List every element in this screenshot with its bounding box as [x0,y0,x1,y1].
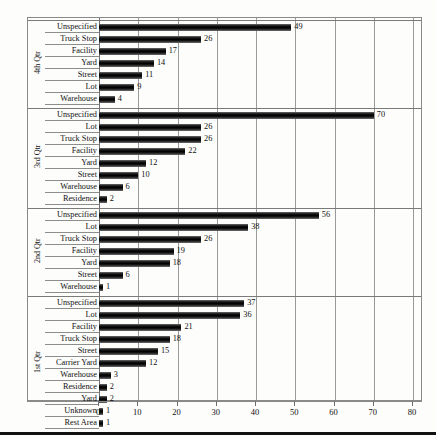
category-label: Warehouse [45,94,97,104]
bar-value-label: 9 [137,82,141,92]
bar-row: Street10 [28,169,421,181]
bar-value-label: 37 [247,298,255,308]
bar [99,336,170,343]
category-label: Facility [45,146,97,156]
bar [99,184,123,191]
bar-value-label: 3 [114,370,118,380]
bar-row: Truck Stop26 [28,233,421,245]
bar-value-label: 26 [204,134,212,144]
bar-row: Street11 [28,69,421,81]
bar [99,72,142,79]
x-tick-60 [334,401,335,406]
category-label: Lot [45,122,97,132]
x-tick-20 [177,401,178,406]
x-axis: 01020304050607080 [27,401,422,431]
category-label: Warehouse [45,182,97,192]
bar [99,96,115,103]
x-tick-30 [216,401,217,406]
category-row-rule [45,204,99,205]
bar-row: Warehouse6 [28,181,421,193]
category-label: Truck Stop [45,34,97,44]
bar-row: Yard14 [28,57,421,69]
bar-value-label: 14 [157,58,165,68]
bar-value-label: 22 [188,146,196,156]
bar-row: Truck Stop18 [28,333,421,345]
bar [99,84,134,91]
x-tick-label: 80 [408,407,417,417]
bar [99,348,158,355]
bar-row: Truck Stop26 [28,33,421,45]
bar-row: Facility22 [28,145,421,157]
category-label: Lot [45,222,97,232]
category-label: Unspecified [45,298,97,308]
bar-value-label: 6 [126,270,130,280]
bar [99,284,103,291]
category-label: Yard [45,158,97,168]
category-label: Carrier Yard [45,358,97,368]
bar-row: Warehouse4 [28,93,421,105]
bar-value-label: 38 [251,222,259,232]
category-label: Street [45,270,97,280]
bar [99,36,201,43]
bar-row: Unspecified37 [28,297,421,309]
category-label: Facility [45,46,97,56]
bar-row: Residence2 [28,381,421,393]
bar [99,136,201,143]
bar-value-label: 12 [149,158,157,168]
x-tick-label: 60 [329,407,338,417]
bar-row: Street6 [28,269,421,281]
bar-row: Unspecified70 [28,109,421,121]
bar [99,372,111,379]
bar-row: Lot36 [28,309,421,321]
bar-row: Lot26 [28,121,421,133]
category-label: Warehouse [45,282,97,292]
category-label: Unspecified [45,110,97,120]
bar-row: Lot9 [28,81,421,93]
x-tick-40 [255,401,256,406]
category-label: Facility [45,246,97,256]
bar-value-label: 26 [204,122,212,132]
bar [99,212,319,219]
bar [99,60,154,67]
bar [99,272,123,279]
x-tick-label: 50 [290,407,299,417]
bar-value-label: 18 [173,258,181,268]
bar-value-label: 49 [294,22,302,32]
bar-row: Truck Stop26 [28,133,421,145]
bar [99,324,181,331]
x-tick-label: 10 [133,407,142,417]
bar [99,248,174,255]
bar-value-label: 21 [184,322,192,332]
plot-area: 4th QtrUnspecified49Truck Stop26Facility… [27,17,422,401]
bar-row: Warehouse3 [28,369,421,381]
bar [99,112,374,119]
quarter-group-3rd-qtr: 3rd QtrUnspecified70Lot26Truck Stop26Fac… [28,108,421,205]
bar [99,148,185,155]
bar [99,196,107,203]
bar-row: Facility21 [28,321,421,333]
bar-value-label: 15 [161,346,169,356]
bar-value-label: 6 [126,182,130,192]
quarter-group-2nd-qtr: 2nd QtrUnspecified56Lot38Truck Stop26Fac… [28,208,421,293]
category-label: Yard [45,258,97,268]
bar [99,24,291,31]
bar [99,124,201,131]
bar-row: Unspecified56 [28,209,421,221]
category-label: Truck Stop [45,134,97,144]
bar [99,260,170,267]
bar-row: Yard12 [28,157,421,169]
bar-value-label: 2 [110,382,114,392]
x-tick-label: 30 [212,407,221,417]
bar [99,384,107,391]
bar-value-label: 18 [173,334,181,344]
bar-value-label: 19 [177,246,185,256]
bar-row: Unspecified49 [28,21,421,33]
category-label: Residence [45,382,97,392]
x-tick-80 [412,401,413,406]
bar-chart-figure: 4th QtrUnspecified49Truck Stop26Facility… [0,0,436,439]
bar-value-label: 36 [243,310,251,320]
quarter-group-4th-qtr: 4th QtrUnspecified49Truck Stop26Facility… [28,20,421,105]
x-tick-label: 70 [369,407,378,417]
bar-value-label: 70 [377,110,385,120]
bar-value-label: 26 [204,234,212,244]
